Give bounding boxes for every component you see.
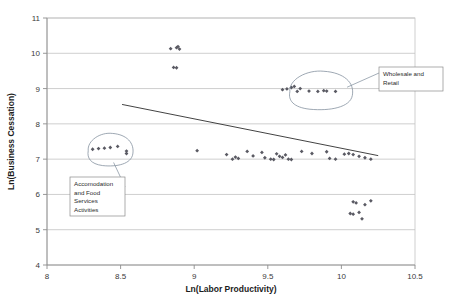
x-tick-label: 9	[192, 272, 197, 281]
annotation-callout-text: Activities	[74, 206, 98, 213]
chart-screenshot: 111098765488.599.51010.5Ln(Labor Product…	[0, 0, 450, 305]
x-tick-label: 10	[337, 272, 346, 281]
annotation-callout-text: and Food	[74, 189, 101, 196]
y-tick-label: 9	[36, 85, 41, 94]
x-tick-label: 8	[45, 272, 50, 281]
x-tick-label: 8.5	[115, 272, 127, 281]
scatter-chart: 111098765488.599.51010.5Ln(Labor Product…	[0, 0, 450, 305]
annotation-callout-text: Wholesale and	[383, 70, 424, 77]
annotation-callout-text: Accomodation	[74, 180, 114, 187]
y-tick-label: 6	[36, 190, 41, 199]
y-tick-label: 7	[36, 155, 41, 164]
y-tick-label: 4	[36, 261, 41, 270]
annotation-callout-text: Services	[74, 197, 98, 204]
y-tick-label: 5	[36, 226, 41, 235]
y-tick-label: 10	[31, 49, 40, 58]
x-axis-title: Ln(Labor Productivity)	[185, 284, 276, 294]
x-tick-label: 9.5	[262, 272, 274, 281]
plot-background	[47, 18, 415, 265]
y-tick-label: 11	[32, 14, 41, 23]
y-axis-title: Ln(Business Cessation)	[6, 93, 16, 190]
y-tick-label: 8	[36, 120, 41, 129]
annotation-callout-text: Retail	[383, 79, 399, 86]
x-tick-label: 10.5	[407, 272, 423, 281]
